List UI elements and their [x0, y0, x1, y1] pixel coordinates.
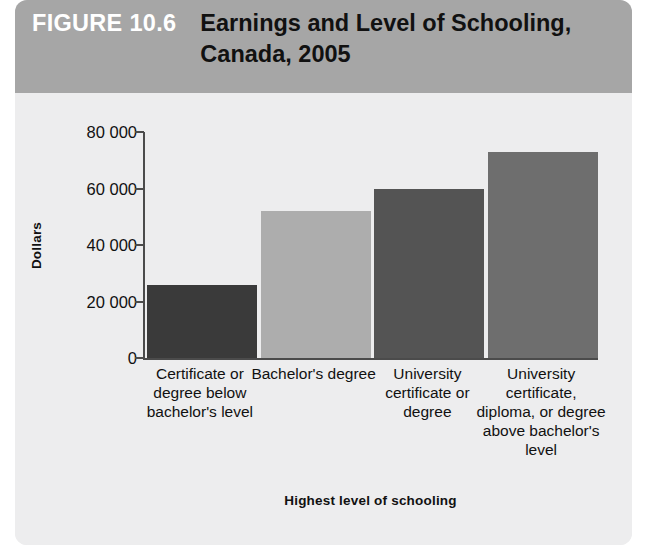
- x-axis-tick-label: University certificate or degree: [363, 364, 493, 421]
- x-axis-title: Highest level of schooling: [143, 493, 598, 508]
- bar-series: [143, 132, 598, 358]
- figure-header-inner: FIGURE 10.6 Earnings and Level of School…: [32, 8, 622, 70]
- chart-axes: [143, 132, 598, 358]
- y-axis-tick-label: 40 000: [87, 236, 137, 255]
- figure-header-band: FIGURE 10.6 Earnings and Level of School…: [15, 0, 632, 93]
- y-axis-tick-mark: [135, 357, 144, 359]
- chart-plot-area: Dollars 020 00040 00060 00080 000 Certif…: [15, 93, 632, 545]
- figure-title: Earnings and Level of Schooling, Canada,…: [200, 8, 590, 70]
- y-axis-title: Dollars: [29, 206, 44, 286]
- x-axis-tick-label: Bachelor's degree: [249, 364, 379, 383]
- y-axis-tick-label: 20 000: [87, 292, 137, 311]
- x-axis-tick-label: University certificate, diploma, or degr…: [476, 364, 606, 459]
- y-axis-tick-mark: [135, 244, 144, 246]
- y-axis-tick-mark: [135, 131, 144, 133]
- bar-3: [374, 189, 484, 359]
- bar-4: [488, 152, 598, 358]
- y-axis-tick-labels: 020 00040 00060 00080 000: [59, 93, 137, 373]
- figure-number-label: FIGURE 10.6: [32, 8, 176, 39]
- bar-2: [261, 211, 371, 358]
- x-axis-tick-labels: Certificate or degree below bachelor's l…: [143, 364, 608, 484]
- x-axis-tick-label: Certificate or degree below bachelor's l…: [135, 364, 265, 421]
- x-axis-line: [143, 358, 598, 360]
- bar-1: [147, 285, 257, 358]
- y-axis-tick-mark: [135, 188, 144, 190]
- y-axis-tick-mark: [135, 301, 144, 303]
- y-axis-tick-label: 60 000: [87, 179, 137, 198]
- y-axis-tick-label: 80 000: [87, 123, 137, 142]
- figure-container: FIGURE 10.6 Earnings and Level of School…: [15, 0, 632, 545]
